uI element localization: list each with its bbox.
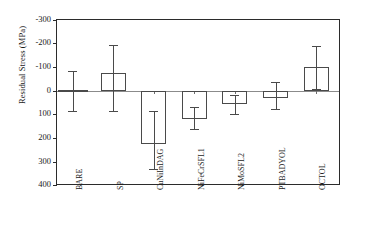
- error-bar-ptbadyol: [276, 82, 277, 109]
- x-label-ptbadyol: PTBADYOL: [278, 147, 287, 190]
- x-tick-mark: [316, 91, 317, 94]
- y-tick-label: -100: [35, 61, 51, 71]
- y-axis-title: Residual Stress (MPa): [17, 0, 27, 135]
- y-tick-label: 200: [38, 132, 51, 142]
- y-tick-label: 400: [38, 179, 51, 189]
- y-tick-mark: [53, 138, 57, 139]
- chart-figure: Residual Stress (MPa) -300 -200 -100 0 1…: [0, 0, 370, 243]
- y-tick-label: 300: [38, 156, 51, 166]
- y-tick-mark: [53, 20, 57, 21]
- error-bar-nimosfl2: [235, 95, 236, 114]
- y-tick-label: -200: [35, 37, 51, 47]
- y-tick-mark: [53, 114, 57, 115]
- error-bar-sp: [113, 45, 114, 111]
- error-cap-lower-octol: [312, 89, 321, 90]
- error-cap-upper-nifecrsfl1: [190, 107, 199, 108]
- x-label-octol: OCTOL: [318, 163, 327, 190]
- error-cap-lower-sp: [109, 111, 118, 112]
- error-bar-nifecrsfl1: [194, 107, 195, 130]
- y-tick-mark: [53, 162, 57, 163]
- error-cap-upper-sp: [109, 45, 118, 46]
- y-tick-mark: [53, 43, 57, 44]
- y-tick-mark: [53, 67, 57, 68]
- error-cap-upper-ptbadyol: [271, 82, 280, 83]
- error-cap-upper-nimosfl2: [230, 95, 239, 96]
- error-cap-upper-cunindag: [149, 111, 158, 112]
- x-label-nifecrsfl1: NiFeCrSFL1: [197, 148, 206, 190]
- error-cap-lower-nifecrsfl1: [190, 129, 199, 130]
- x-label-nimosfl2: NiMoSFL2: [237, 153, 246, 190]
- x-label-cunindag: CuNiInDAG: [156, 149, 165, 190]
- error-cap-upper-octol: [312, 46, 321, 47]
- error-cap-lower-bare: [68, 111, 77, 112]
- error-cap-lower-ptbadyol: [271, 109, 280, 110]
- x-label-bare: BARE: [75, 169, 84, 190]
- error-cap-lower-nimosfl2: [230, 114, 239, 115]
- y-tick-mark: [53, 185, 57, 186]
- error-bar-octol: [316, 46, 317, 91]
- error-bar-bare: [73, 71, 74, 111]
- error-bar-cunindag: [154, 111, 155, 169]
- error-cap-upper-bare: [68, 71, 77, 72]
- y-tick-label: -300: [35, 14, 51, 24]
- x-label-sp: SP: [116, 181, 125, 190]
- y-tick-label: 100: [38, 108, 51, 118]
- y-tick-label: 0: [47, 85, 51, 95]
